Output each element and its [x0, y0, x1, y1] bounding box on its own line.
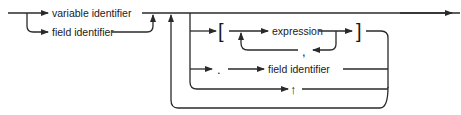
node-left-bracket: [ [218, 20, 224, 42]
node-period: . [217, 62, 221, 77]
node-up-arrow: ↑ [290, 82, 297, 97]
right-rail [366, 31, 388, 88]
node-variable-identifier: variable identifier [52, 7, 132, 19]
node-right-bracket: ] [356, 20, 362, 42]
branch-field-identifier [27, 13, 48, 32]
node-comma: , [302, 44, 306, 59]
syntax-diagram: variable identifier field identifier [ e… [0, 0, 461, 115]
node-field-identifier: field identifier [52, 26, 114, 38]
node-field-identifier-2: field identifier [268, 63, 330, 75]
node-expression: expression [272, 25, 323, 37]
